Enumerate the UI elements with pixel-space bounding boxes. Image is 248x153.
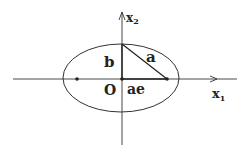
right-focus-point — [165, 77, 169, 81]
x-axis-label: x1 — [212, 86, 225, 103]
origin-label: O — [104, 82, 116, 98]
semi-major-segment — [122, 44, 167, 79]
semi-minor-label: b — [104, 53, 115, 71]
y-axis-label: x2 — [126, 11, 139, 26]
ellipse-diagram: x2 x1 b a O ae — [0, 0, 248, 153]
left-focus-point — [75, 77, 79, 81]
focal-distance-label: ae — [127, 81, 145, 97]
semi-major-label: a — [146, 48, 156, 66]
center-point — [120, 77, 124, 81]
